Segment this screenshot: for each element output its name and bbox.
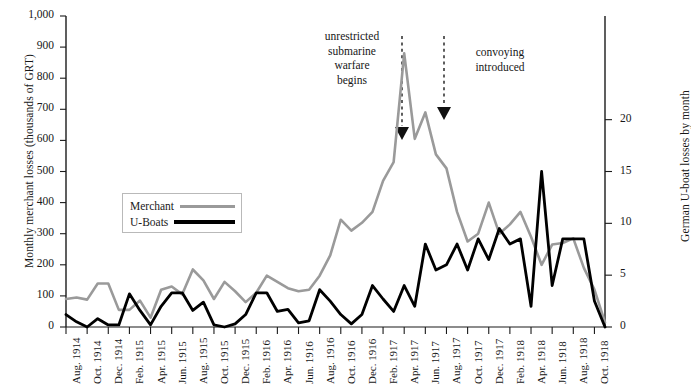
- y-tick-label-left: 100: [6, 288, 54, 300]
- y-tick-label-left: 900: [6, 39, 54, 51]
- legend-swatch-uboats: [174, 220, 235, 224]
- x-tick-label: Dec. 1916: [366, 339, 378, 384]
- y-axis-left-ticks: [60, 16, 66, 327]
- x-tick-label: Jun. 1918: [556, 341, 568, 384]
- y-tick-label-right: 15: [620, 164, 632, 176]
- y-tick-label-left: 600: [6, 132, 54, 144]
- x-tick-label: Aug. 1916: [324, 338, 336, 384]
- x-tick-label: Dec. 1917: [493, 339, 505, 384]
- x-tick-label: Aug. 1914: [70, 338, 82, 384]
- y-tick-label-right: 0: [620, 319, 626, 331]
- y-tick-label-left: 1,000: [6, 8, 54, 20]
- x-tick-label: Aug. 1915: [197, 338, 209, 384]
- x-tick-label: Feb. 1917: [387, 340, 399, 384]
- x-tick-label: Jun. 1917: [429, 341, 441, 384]
- annotation-2-arrowhead: [437, 107, 451, 120]
- x-tick-label: Apr. 1915: [155, 340, 167, 384]
- y-tick-label-right: 20: [620, 112, 632, 124]
- y-tick-label-right: 5: [620, 267, 626, 279]
- y-tick-label-left: 500: [6, 164, 54, 176]
- x-tick-label: Feb. 1915: [133, 340, 145, 384]
- legend-swatch-merchant: [180, 205, 235, 208]
- legend-item-merchant: Merchant: [130, 198, 235, 214]
- y-tick-label-left: 700: [6, 101, 54, 113]
- y-tick-label-left: 300: [6, 226, 54, 238]
- y-axis-right-ticks: [605, 120, 612, 327]
- y-tick-label-left: 400: [6, 195, 54, 207]
- x-tick-label: Oct. 1915: [218, 341, 230, 384]
- y-tick-label-left: 0: [6, 319, 54, 331]
- series-line-merchant: [66, 53, 605, 322]
- x-tick-label: Aug. 1918: [577, 338, 589, 384]
- x-tick-label: Feb. 1916: [260, 340, 272, 384]
- y-tick-label-right: 10: [620, 215, 632, 227]
- x-tick-label: Oct. 1917: [472, 341, 484, 384]
- x-tick-label: Dec. 1914: [112, 339, 124, 384]
- x-tick-label: Oct. 1914: [91, 341, 103, 384]
- legend-label-uboats: U-Boats: [130, 216, 168, 228]
- x-tick-label: Feb. 1918: [514, 340, 526, 384]
- legend-label-merchant: Merchant: [130, 200, 174, 212]
- x-tick-label: Jun. 1916: [303, 341, 315, 384]
- x-tick-label: Apr. 1918: [535, 340, 547, 384]
- annotation-convoying: convoying introduced: [460, 45, 540, 74]
- x-tick-label: Oct. 1916: [345, 341, 357, 384]
- legend-item-uboats: U-Boats: [130, 214, 235, 230]
- x-tick-label: Apr. 1917: [408, 340, 420, 384]
- y-tick-label-left: 800: [6, 70, 54, 82]
- legend: Merchant U-Boats: [122, 193, 242, 233]
- x-tick-label: Oct. 1918: [598, 341, 610, 384]
- x-tick-label: Jun. 1915: [176, 341, 188, 384]
- annotation-unrestricted-warfare: unrestricted submarine warfare begins: [311, 29, 393, 87]
- x-tick-label: Apr. 1916: [281, 340, 293, 384]
- x-tick-label: Dec. 1915: [239, 339, 251, 384]
- x-tick-label: Aug. 1917: [450, 338, 462, 384]
- y-tick-label-left: 200: [6, 257, 54, 269]
- x-axis-ticks: [66, 327, 594, 334]
- annotation-arrows: [395, 36, 451, 140]
